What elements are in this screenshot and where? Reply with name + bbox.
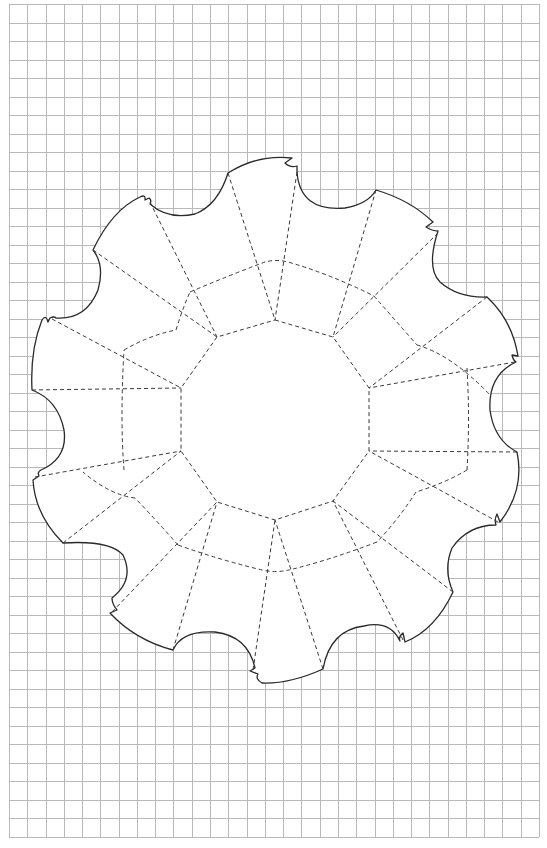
template-canvas	[0, 0, 547, 848]
cut-outline	[32, 157, 519, 683]
